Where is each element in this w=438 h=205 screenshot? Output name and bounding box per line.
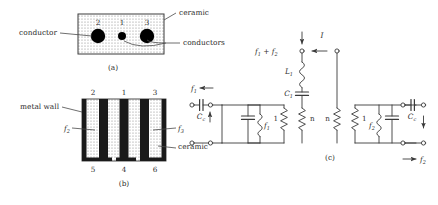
- bottom-wall-right: [140, 158, 164, 162]
- label-f2-tank: f2: [368, 121, 375, 131]
- label-turns-n-right: n: [325, 114, 330, 123]
- metal-wall-right: [162, 99, 167, 161]
- strip-conductor-right: [140, 99, 149, 161]
- label-f3-b: f3: [177, 124, 184, 134]
- terminal-left-in-top: [208, 103, 212, 107]
- conductor-number-2: 2: [96, 18, 101, 27]
- bottom-wall-center: [116, 158, 136, 162]
- left-tank-inductor: [258, 114, 262, 136]
- label-turns-left-1: 1: [273, 114, 278, 123]
- strip-conductor-left: [99, 99, 108, 161]
- label-f2-b: f2: [63, 124, 70, 134]
- label-C1: C1: [284, 89, 293, 99]
- terminal-left-in-bottom: [208, 141, 212, 145]
- panel-a: 2 1 3 conductor ceramic conductors (a): [19, 8, 225, 72]
- conductor-dot-3: [140, 29, 154, 43]
- terminal-right-out-bottom: [401, 141, 405, 145]
- strip-number-3: 3: [153, 88, 158, 97]
- label-current-I: I: [320, 31, 325, 40]
- label-conductors-a: conductors: [183, 38, 225, 47]
- terminal-top-right: [335, 49, 339, 53]
- strip-conductor-center: [120, 99, 129, 161]
- label-ceramic-a: ceramic: [179, 8, 209, 17]
- strip-number-5: 5: [91, 165, 96, 174]
- label-f1-tank: f1: [263, 121, 270, 131]
- label-metal-wall: metal wall: [20, 102, 60, 111]
- caption-a: (a): [108, 63, 118, 72]
- label-L1: L1: [284, 67, 293, 77]
- bottom-wall-left: [86, 158, 112, 162]
- label-Cc-right: Cc: [408, 112, 417, 122]
- conductor-number-1: 1: [120, 18, 125, 27]
- leader-ceramic-a: [164, 13, 176, 20]
- strip-number-6: 6: [153, 165, 158, 174]
- right-tank-inductor: [377, 114, 381, 136]
- conductor-number-3: 3: [145, 18, 150, 27]
- strip-number-4: 4: [122, 165, 127, 174]
- terminal-right-out-top: [401, 103, 405, 107]
- terminal-right-out-outer-bottom: [421, 141, 425, 145]
- winding-right-secondary-1: [352, 108, 359, 130]
- label-Cc-left: Cc: [197, 112, 206, 122]
- label-turns-right-1: 1: [362, 114, 367, 123]
- winding-left-secondary-1: [281, 108, 288, 130]
- panel-b: 2 1 3 5 4 6 metal wall f2 f3 ceramic (b): [20, 88, 208, 188]
- panel-c: f1 + f2 I L1 C1 Cc Cc f1 f2 f1 f2 1 n n …: [190, 31, 426, 165]
- leader-metal-wall: [62, 107, 82, 112]
- strip-number-2: 2: [91, 88, 96, 97]
- terminal-left-in-outer-bottom: [190, 141, 194, 145]
- metal-wall-left: [82, 99, 87, 161]
- conductor-dot-2: [91, 29, 105, 43]
- caption-b: (b): [119, 179, 130, 188]
- winding-left-n: [299, 108, 306, 130]
- label-f1-input: f1: [190, 84, 197, 94]
- caption-c: (c): [325, 153, 335, 162]
- figure-root: 2 1 3 conductor ceramic conductors (a) 2…: [0, 0, 438, 205]
- inductor-L1: [300, 62, 305, 88]
- label-sum-frequency: f1 + f2: [254, 47, 278, 57]
- winding-right-n: [334, 108, 341, 130]
- label-turns-n-left: n: [310, 114, 315, 123]
- conductor-dot-1: [118, 32, 126, 40]
- terminal-right-out-outer-top: [421, 103, 425, 107]
- strip-number-1: 1: [122, 88, 127, 97]
- label-f2-output: f2: [419, 155, 426, 165]
- label-conductor: conductor: [19, 28, 57, 37]
- terminal-top-left: [300, 49, 304, 53]
- terminal-left-in-outer-top: [190, 103, 194, 107]
